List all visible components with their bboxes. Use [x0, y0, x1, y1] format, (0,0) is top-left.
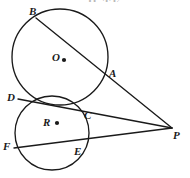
circle-o-outline	[12, 9, 108, 105]
secant-line-f-e-p	[14, 128, 172, 148]
circle-o-center-dot	[62, 58, 66, 62]
point-label-c: C	[84, 110, 91, 121]
circle-r-center-dot	[55, 121, 59, 125]
point-label-b: B	[29, 6, 36, 17]
point-label-a: A	[109, 68, 116, 79]
point-label-e: E	[74, 146, 81, 157]
circle-r-outline	[15, 96, 89, 170]
circle-r-center-label: R	[43, 117, 50, 128]
circle-o-center-label: O	[52, 52, 60, 63]
secant-line-b-a-p	[36, 18, 172, 128]
point-label-d: D	[7, 92, 15, 103]
figure-canvas	[0, 0, 190, 178]
point-label-p: P	[173, 130, 180, 141]
geometry-figure: H TE O R B A D C F E P	[0, 0, 190, 178]
secant-line-d-c-p	[18, 99, 172, 128]
point-label-f: F	[3, 141, 10, 152]
